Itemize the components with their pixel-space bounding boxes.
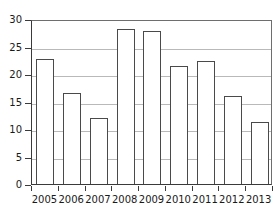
x-axis-label-2012: 2012 xyxy=(218,194,245,205)
y-axis-label-25: 25 xyxy=(0,43,22,53)
bar-chart: 30 25 20 15 10 5 0 200520062007200820092… xyxy=(0,0,280,213)
bar-slot xyxy=(246,21,273,184)
x-axis-tick xyxy=(165,186,166,191)
y-axis-label-5: 5 xyxy=(0,153,22,163)
bar-slot xyxy=(193,21,220,184)
x-axis-tick xyxy=(192,186,193,191)
bar-2010[interactable] xyxy=(170,66,188,184)
bar-slot xyxy=(86,21,113,184)
x-axis-tick xyxy=(218,186,219,191)
x-axis-label-2007: 2007 xyxy=(85,194,112,205)
bar-2008[interactable] xyxy=(117,29,135,184)
bar-2005[interactable] xyxy=(36,59,54,184)
x-axis-label-2008: 2008 xyxy=(111,194,138,205)
bar-slot xyxy=(112,21,139,184)
x-axis-tick xyxy=(85,186,86,191)
bar-slot xyxy=(219,21,246,184)
bar-2011[interactable] xyxy=(197,61,215,184)
x-axis-label-2010: 2010 xyxy=(165,194,192,205)
bars-layer xyxy=(32,21,271,184)
bar-slot xyxy=(59,21,86,184)
x-axis-tick xyxy=(138,186,139,191)
y-axis-label-20: 20 xyxy=(0,70,22,80)
bar-2013[interactable] xyxy=(251,122,269,184)
y-axis-label-30: 30 xyxy=(0,15,22,25)
bar-2006[interactable] xyxy=(63,93,81,184)
x-axis-tick xyxy=(245,186,246,191)
x-axis-tick xyxy=(272,186,273,191)
y-axis-label-15: 15 xyxy=(0,98,22,108)
x-axis-tick xyxy=(111,186,112,191)
bar-2012[interactable] xyxy=(224,96,242,184)
x-axis-label-2009: 2009 xyxy=(138,194,165,205)
plot-area xyxy=(31,20,272,185)
x-axis-label-2013: 2013 xyxy=(245,194,272,205)
x-axis-label-2005: 2005 xyxy=(31,194,58,205)
x-axis-tick xyxy=(58,186,59,191)
bar-slot xyxy=(166,21,193,184)
bar-slot xyxy=(32,21,59,184)
bar-slot xyxy=(139,21,166,184)
y-axis-label-0: 0 xyxy=(0,180,22,190)
bar-2009[interactable] xyxy=(143,31,161,184)
y-axis-label-10: 10 xyxy=(0,125,22,135)
x-axis-label-2011: 2011 xyxy=(192,194,219,205)
x-axis-label-2006: 2006 xyxy=(58,194,85,205)
bar-2007[interactable] xyxy=(90,118,108,184)
x-axis-tick xyxy=(31,186,32,191)
